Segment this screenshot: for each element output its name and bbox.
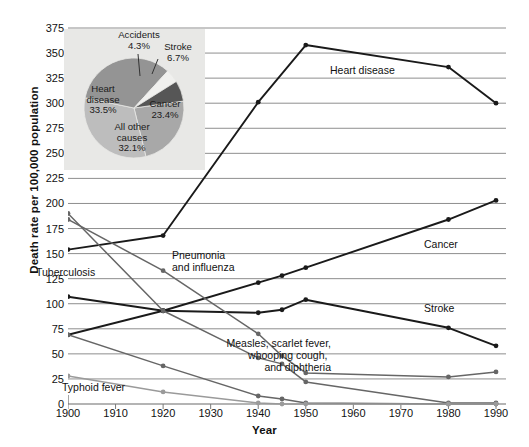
data-point[interactable] [161, 390, 166, 395]
pie-chart-inset: Accidents4.3%Stroke6.7%Heartdisease33.5%… [64, 29, 205, 170]
data-point[interactable] [256, 310, 261, 315]
data-point[interactable] [303, 402, 308, 407]
x-tick-label: 1900 [56, 407, 80, 419]
data-point[interactable] [446, 217, 451, 222]
data-point[interactable] [256, 100, 261, 105]
pie-cancer-label-line1: Cancer [140, 99, 190, 110]
pneumonia-label-line1: Pneumonia [172, 249, 234, 261]
y-tick-label: 225 [24, 173, 64, 183]
y-tick-label: 75 [24, 324, 64, 334]
pie-other-label: All othercauses32.1% [104, 122, 160, 154]
x-tick-label: 1920 [151, 407, 175, 419]
data-point[interactable] [446, 325, 451, 330]
y-tick-label: 250 [24, 148, 64, 158]
x-tick-label: 1990 [484, 407, 508, 419]
data-point[interactable] [68, 374, 70, 379]
data-point[interactable] [161, 268, 166, 273]
pie-other-label-line3: 32.1% [104, 143, 160, 154]
x-tick-label: 1960 [341, 407, 365, 419]
pie-accidents-label-line1: Accidents [104, 30, 174, 41]
pie-cancer-label-line2: 23.4% [140, 110, 190, 121]
y-axis-tick-labels: 0255075100125150175200225250275300325350… [22, 0, 64, 447]
tuberculosis-label-line1: Tuberculosis [36, 266, 95, 278]
pie-heart-label-line3: 33.5% [79, 105, 127, 116]
data-point[interactable] [161, 308, 166, 313]
heart-disease-label-line1: Heart disease [330, 64, 395, 76]
y-tick-label: 50 [24, 349, 64, 359]
data-point[interactable] [280, 402, 285, 407]
pie-heart-label-line1: Heart [79, 84, 127, 95]
series-line-1[interactable] [68, 200, 496, 334]
data-point[interactable] [303, 380, 308, 385]
y-tick-label: 300 [24, 98, 64, 108]
data-point[interactable] [280, 397, 285, 402]
data-point[interactable] [446, 65, 451, 70]
pie-stroke-label-line1: Stroke [154, 42, 202, 53]
data-point[interactable] [494, 198, 499, 203]
measles-label-line3: and diphtheria [227, 361, 331, 373]
measles-label: Measles, scarlet fever,whooping cough,an… [227, 337, 331, 373]
data-point[interactable] [256, 401, 261, 406]
x-tick-label: 1950 [294, 407, 318, 419]
y-tick-label: 175 [24, 224, 64, 234]
data-point[interactable] [256, 280, 261, 285]
data-point[interactable] [446, 402, 451, 407]
typhoid-label: Typhoid fever [62, 381, 125, 393]
y-tick-label: 100 [24, 299, 64, 309]
data-point[interactable] [280, 273, 285, 278]
data-point[interactable] [446, 375, 451, 380]
data-point[interactable] [280, 307, 285, 312]
data-point[interactable] [256, 394, 261, 399]
y-tick-label: 200 [24, 198, 64, 208]
data-point[interactable] [494, 402, 499, 407]
data-point[interactable] [68, 332, 70, 337]
pie-stroke-label: Stroke6.7% [154, 42, 202, 63]
data-point[interactable] [303, 297, 308, 302]
heart-disease-label: Heart disease [330, 64, 395, 76]
y-tick-label: 325 [24, 73, 64, 83]
data-point[interactable] [68, 294, 70, 299]
pie-stroke-label-line2: 6.7% [154, 53, 202, 64]
tuberculosis-label: Tuberculosis [36, 266, 95, 278]
x-axis-title: Year [0, 424, 529, 436]
data-point[interactable] [303, 43, 308, 48]
x-tick-label: 1930 [198, 407, 222, 419]
measles-label-line2: whooping cough, [227, 349, 331, 361]
x-tick-label: 1940 [246, 407, 270, 419]
cancer-label-line1: Cancer [424, 238, 458, 250]
data-point[interactable] [494, 343, 499, 348]
data-point[interactable] [161, 233, 166, 238]
data-point[interactable] [494, 101, 499, 106]
data-point[interactable] [68, 247, 70, 252]
stroke-label-line1: Stroke [424, 302, 454, 314]
y-tick-label: 150 [24, 249, 64, 259]
pie-heart-label: Heartdisease33.5% [79, 84, 127, 116]
stroke-label: Stroke [424, 302, 454, 314]
y-tick-label: 350 [24, 48, 64, 58]
data-point[interactable] [494, 370, 499, 375]
pie-other-label-line1: All other [104, 122, 160, 133]
y-tick-label: 375 [24, 23, 64, 33]
y-tick-label: 25 [24, 374, 64, 384]
x-tick-label: 1970 [389, 407, 413, 419]
y-tick-label: 275 [24, 123, 64, 133]
pneumonia-label: Pneumoniaand influenza [172, 249, 234, 273]
x-tick-label: 1980 [436, 407, 460, 419]
cancer-label: Cancer [424, 238, 458, 250]
measles-label-line1: Measles, scarlet fever, [227, 337, 331, 349]
typhoid-label-line1: Typhoid fever [62, 381, 125, 393]
x-tick-label: 1910 [103, 407, 127, 419]
pie-cancer-label: Cancer23.4% [140, 99, 190, 120]
pneumonia-label-line2: and influenza [172, 261, 234, 273]
data-point[interactable] [303, 265, 308, 270]
data-point[interactable] [256, 331, 261, 336]
chart-figure: Death rate per 100,000 population 025507… [0, 0, 529, 447]
data-point[interactable] [161, 363, 166, 368]
